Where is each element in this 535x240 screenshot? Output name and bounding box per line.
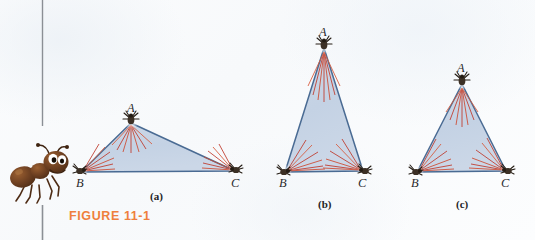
vertex-label-c-C: C xyxy=(501,177,509,190)
figure-canvas xyxy=(0,0,535,240)
figure-caption: FIGURE 11-1 xyxy=(69,209,151,223)
vertex-label-b-A: A xyxy=(319,26,327,39)
vertex-label-a-C: C xyxy=(231,177,239,190)
vertex-label-c-B: B xyxy=(411,177,419,190)
vertex-label-b-B: B xyxy=(279,177,287,190)
vertex-label-a-A: A xyxy=(127,102,135,115)
diagram-sublabel-c: (c) xyxy=(456,199,468,210)
cartoon-ant-illustration xyxy=(8,143,69,203)
diagram-sublabel-a: (a) xyxy=(150,191,163,202)
vertex-label-a-B: B xyxy=(76,177,84,190)
diagram-a xyxy=(72,111,244,179)
vertex-label-c-A: A xyxy=(457,62,465,75)
diagram-sublabel-b: (b) xyxy=(318,199,331,210)
diagram-c xyxy=(408,72,516,180)
ray-fan-b-A xyxy=(308,52,340,102)
vertex-label-b-C: C xyxy=(358,177,366,190)
figure-page: A B C (a) A B C (b) A B C (c) FIGURE 11-… xyxy=(0,0,535,240)
diagram-b xyxy=(276,36,373,180)
